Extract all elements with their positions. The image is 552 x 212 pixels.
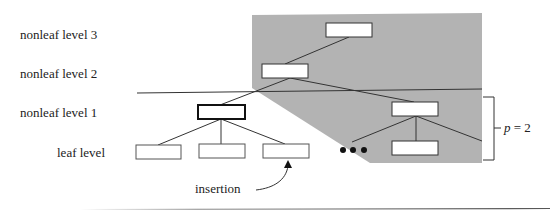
label-nonleaf-level-3: nonleaf level 3 (20, 28, 97, 41)
insertion-arrow-icon (256, 166, 288, 190)
node-level2 (262, 64, 308, 78)
node-level3-root (326, 23, 372, 37)
leaf-node-1 (136, 145, 181, 159)
node-level1-right (392, 102, 438, 116)
ellipsis-dots-icon (340, 147, 367, 153)
label-leaf-level: leaf level (57, 146, 105, 159)
arrowhead-icon (284, 160, 292, 168)
label-p-equals-2: p = 2 (504, 121, 531, 134)
bottom-rule (80, 209, 550, 210)
label-nonleaf-level-1: nonleaf level 1 (20, 106, 97, 119)
p-value: = 2 (511, 120, 531, 135)
node-level1-left (198, 105, 245, 119)
label-nonleaf-level-2: nonleaf level 2 (20, 67, 97, 80)
diagram-canvas: nonleaf level 3 nonleaf level 2 nonleaf … (0, 0, 552, 212)
leaf-node-right (392, 141, 438, 155)
leaf-node-2 (199, 144, 245, 158)
label-insertion: insertion (195, 182, 241, 195)
leaf-node-3-insertion (263, 144, 309, 158)
bracket-p-icon (483, 97, 501, 160)
